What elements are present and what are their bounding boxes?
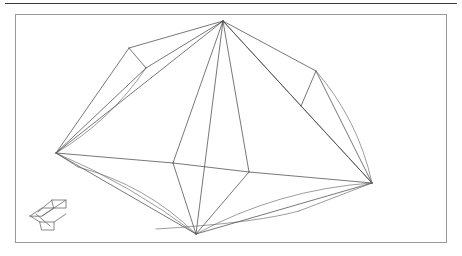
edge-apex-left bbox=[56, 21, 223, 153]
wireframe-drawing bbox=[16, 15, 446, 242]
edge-inner-left-outer-left bbox=[56, 153, 173, 163]
orientation-axis-gizmo[interactable] bbox=[24, 194, 70, 236]
edge-apex-ul-facet-a bbox=[129, 21, 223, 48]
outer-silhouette-edges bbox=[56, 21, 372, 234]
edge-bottom-right bbox=[196, 183, 372, 234]
edge-apex-ur-facet-b bbox=[223, 21, 301, 106]
edge-inner-left-right bbox=[173, 163, 249, 172]
edge-lower-left-chord bbox=[56, 153, 78, 167]
edge-ul-b-left bbox=[56, 68, 146, 153]
gizmo-axis-d bbox=[30, 216, 40, 222]
edge-apex-inner-left bbox=[173, 21, 223, 163]
edge-ul-a-b bbox=[129, 48, 146, 68]
edge-ur-b-right bbox=[301, 106, 372, 183]
3d-wireframe-viewport[interactable] bbox=[15, 14, 447, 243]
edge-inner-right-outer-right bbox=[249, 172, 372, 183]
edge-apex-bottom bbox=[196, 21, 223, 234]
edge-apex-ul-facet-b bbox=[146, 21, 223, 68]
edge-ur-a-right bbox=[316, 71, 372, 183]
edge-inner-right-bottom bbox=[196, 172, 249, 234]
page-root bbox=[0, 0, 462, 256]
top-horizontal-rule bbox=[5, 3, 457, 4]
edge-apex-ur-facet-a bbox=[223, 21, 316, 71]
gizmo-axis-a bbox=[38, 200, 52, 212]
edge-ur-a-b bbox=[301, 71, 316, 106]
gizmo-axis-f bbox=[54, 214, 66, 222]
upper-right-facet bbox=[301, 71, 372, 183]
arc-lower-right-inner bbox=[156, 211, 299, 229]
upper-left-facet bbox=[56, 48, 146, 153]
gizmo-plate-mid bbox=[30, 208, 54, 216]
inner-facet-ring bbox=[56, 153, 372, 234]
edge-apex-inner-right bbox=[223, 21, 249, 172]
lower-silhouette-arcs bbox=[56, 153, 372, 234]
gizmo-axis-e bbox=[54, 200, 66, 208]
edge-ul-a-left bbox=[56, 48, 129, 153]
gizmo-axis-c bbox=[42, 208, 54, 216]
edge-left-bottom bbox=[56, 153, 196, 234]
